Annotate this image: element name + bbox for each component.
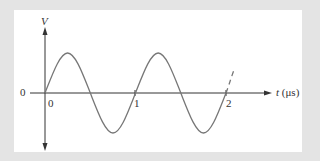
t-axis-arrow-icon (264, 91, 272, 96)
y-axis-label: V (41, 15, 48, 27)
x-axis-unit: (μs) (282, 86, 300, 98)
sine-continuation-dashed (226, 70, 234, 93)
x-axis-var: t (276, 86, 279, 98)
x-tick-label-1: 1 (134, 97, 140, 109)
x-tick-label-2: 2 (226, 97, 232, 109)
x-tick-label-0: 0 (48, 97, 54, 109)
origin-y-label: 0 (20, 86, 26, 98)
v-axis-up-arrow-icon (43, 27, 48, 35)
v-axis-down-arrow-icon (43, 143, 48, 151)
x-axis-label: t (μs) (276, 86, 299, 98)
